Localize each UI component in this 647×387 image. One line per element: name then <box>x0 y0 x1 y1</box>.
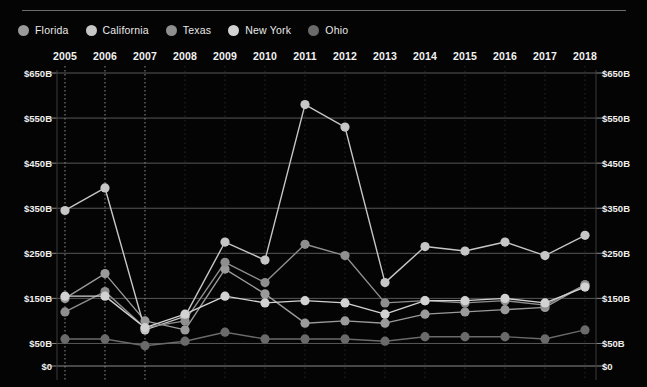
datapoint-new-york-2016[interactable] <box>500 294 509 303</box>
datapoint-new-york-2014[interactable] <box>420 296 429 305</box>
datapoint-florida-2014[interactable] <box>420 310 429 319</box>
datapoint-new-york-2017[interactable] <box>540 298 549 307</box>
datapoint-california-2016[interactable] <box>500 237 509 246</box>
datapoint-new-york-2008[interactable] <box>180 310 189 319</box>
datapoint-florida-2016[interactable] <box>500 305 509 314</box>
y-tick-left-350B: $350B <box>0 203 52 214</box>
datapoint-ohio-2008[interactable] <box>180 337 189 346</box>
datapoint-ohio-2009[interactable] <box>220 328 229 337</box>
datapoint-ohio-2015[interactable] <box>460 332 469 341</box>
datapoint-new-york-2018[interactable] <box>580 283 589 292</box>
series-line-texas <box>65 244 585 327</box>
datapoint-california-2015[interactable] <box>460 246 469 255</box>
datapoint-california-2009[interactable] <box>220 237 229 246</box>
datapoint-california-2018[interactable] <box>580 231 589 240</box>
plot-area: $650B$550B$450B$350B$250B$150B$50B$0 $65… <box>0 0 647 387</box>
datapoint-california-2005[interactable] <box>60 206 69 215</box>
datapoint-california-2011[interactable] <box>300 100 309 109</box>
datapoint-texas-2005[interactable] <box>60 307 69 316</box>
y-tick-left-250B: $250B <box>0 248 52 259</box>
datapoint-new-york-2013[interactable] <box>380 310 389 319</box>
datapoint-new-york-2011[interactable] <box>300 296 309 305</box>
y-tick-left-650B: $650B <box>0 68 52 79</box>
datapoint-new-york-2012[interactable] <box>340 298 349 307</box>
datapoint-ohio-2011[interactable] <box>300 334 309 343</box>
datapoint-ohio-2012[interactable] <box>340 334 349 343</box>
y-tick-right-0: $0 <box>602 361 613 372</box>
datapoint-ohio-2006[interactable] <box>100 334 109 343</box>
datapoint-florida-2010[interactable] <box>260 289 269 298</box>
datapoint-texas-2012[interactable] <box>340 251 349 260</box>
datapoint-california-2006[interactable] <box>100 183 109 192</box>
y-tick-right-250B: $250B <box>602 248 630 259</box>
y-tick-right-450B: $450B <box>602 158 630 169</box>
y-tick-right-550B: $550B <box>602 113 630 124</box>
datapoint-florida-2008[interactable] <box>180 325 189 334</box>
datapoint-new-york-2006[interactable] <box>100 292 109 301</box>
datapoint-texas-2010[interactable] <box>260 278 269 287</box>
datapoint-florida-2012[interactable] <box>340 316 349 325</box>
datapoint-new-york-2005[interactable] <box>60 292 69 301</box>
y-tick-left-550B: $550B <box>0 113 52 124</box>
y-tick-left-50B: $50B <box>0 338 52 349</box>
y-tick-left-450B: $450B <box>0 158 52 169</box>
y-tick-right-650B: $650B <box>602 68 630 79</box>
datapoint-ohio-2014[interactable] <box>420 332 429 341</box>
datapoint-texas-2013[interactable] <box>380 298 389 307</box>
datapoint-florida-2015[interactable] <box>460 307 469 316</box>
chart-page: FloridaCaliforniaTexasNew YorkOhio 20052… <box>0 0 647 387</box>
datapoint-ohio-2018[interactable] <box>580 325 589 334</box>
y-tick-right-50B: $50B <box>602 338 625 349</box>
datapoint-california-2012[interactable] <box>340 122 349 131</box>
y-tick-left-150B: $150B <box>0 293 52 304</box>
datapoint-ohio-2007[interactable] <box>140 341 149 350</box>
datapoint-ohio-2013[interactable] <box>380 337 389 346</box>
y-tick-right-350B: $350B <box>602 203 630 214</box>
datapoint-california-2014[interactable] <box>420 242 429 251</box>
datapoint-california-2017[interactable] <box>540 251 549 260</box>
datapoint-ohio-2010[interactable] <box>260 334 269 343</box>
datapoint-new-york-2015[interactable] <box>460 296 469 305</box>
datapoint-california-2010[interactable] <box>260 255 269 264</box>
datapoint-florida-2013[interactable] <box>380 319 389 328</box>
datapoint-florida-2011[interactable] <box>300 319 309 328</box>
datapoint-ohio-2016[interactable] <box>500 332 509 341</box>
line-chart-svg <box>0 0 647 387</box>
datapoint-texas-2011[interactable] <box>300 240 309 249</box>
datapoint-new-york-2007[interactable] <box>140 323 149 332</box>
datapoint-new-york-2010[interactable] <box>260 298 269 307</box>
datapoint-ohio-2005[interactable] <box>60 334 69 343</box>
y-tick-left-0: $0 <box>0 361 52 372</box>
datapoint-texas-2009[interactable] <box>220 258 229 267</box>
datapoint-new-york-2009[interactable] <box>220 292 229 301</box>
datapoint-california-2013[interactable] <box>380 278 389 287</box>
y-tick-right-150B: $150B <box>602 293 630 304</box>
datapoint-ohio-2017[interactable] <box>540 334 549 343</box>
datapoint-florida-2006[interactable] <box>100 269 109 278</box>
